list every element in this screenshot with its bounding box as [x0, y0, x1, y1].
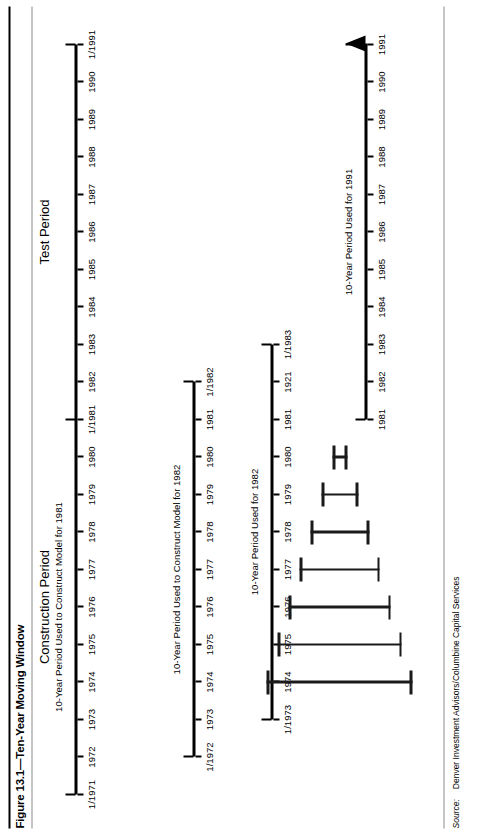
heading-test-period: Test Period — [36, 199, 51, 264]
bar-top-cap — [321, 482, 324, 506]
axis-tick — [195, 531, 201, 533]
axis-tick-label: 1981 — [375, 408, 386, 429]
axis-tick-label: 1981 — [203, 408, 214, 429]
figure-root: Figure 13.1—Ten-Year Moving Window Sourc… — [0, 0, 483, 834]
axis-tick — [195, 568, 201, 570]
axis-tick-label: 1980 — [85, 446, 96, 467]
axis-tick — [77, 643, 83, 645]
axis-tick — [367, 231, 373, 233]
axis-tick — [77, 418, 83, 420]
axis-tick-label: 1983 — [375, 333, 386, 354]
axis-tick-label: 1979 — [281, 483, 292, 504]
axis-tick-label: 1987 — [85, 183, 96, 204]
axis-tick — [273, 381, 279, 383]
timeline-end-cap — [183, 381, 193, 383]
source-rule — [443, 6, 444, 828]
axis-tick — [195, 606, 201, 608]
axis-tick-label: 1981 — [281, 408, 292, 429]
timeline-end-cap — [355, 418, 365, 420]
axis-tick — [195, 381, 201, 383]
axis-tick — [273, 531, 279, 533]
axis-tick-label: 1984 — [85, 296, 96, 317]
timeline-caption: 10-Year Period Used to Construct Model f… — [52, 502, 63, 712]
title-rule-bottom — [31, 6, 32, 828]
axis-tick — [77, 456, 83, 458]
axis-tick-label: 1978 — [203, 521, 214, 542]
axis-tick-label: 1975 — [203, 633, 214, 654]
axis-tick-label: 1977 — [281, 558, 292, 579]
axis-tick — [273, 493, 279, 495]
bar-top-cap — [288, 595, 291, 619]
bar-top-cap — [266, 670, 269, 694]
axis-tick-label: 1973 — [85, 708, 96, 729]
bar-stem — [266, 680, 412, 683]
timeline-caption: 10-Year Period Used to Construct Model f… — [170, 464, 181, 674]
bar-bottom-cap — [409, 670, 412, 694]
axis-tick — [273, 606, 279, 608]
axis-tick — [77, 606, 83, 608]
axis-tick-label: 1/1981 — [85, 404, 96, 433]
axis-tick — [77, 43, 83, 45]
axis-tick — [77, 193, 83, 195]
axis-tick-label: 1974 — [203, 671, 214, 692]
axis-tick — [77, 156, 83, 158]
bar-stem — [288, 605, 390, 608]
axis-tick — [273, 456, 279, 458]
axis-tick-label: 1991 — [375, 33, 386, 54]
axis-tick-label: 1/1972 — [203, 742, 214, 771]
axis-tick-label: 1975 — [85, 633, 96, 654]
axis-tick — [273, 418, 279, 420]
axis-tick-label: 1986 — [375, 221, 386, 242]
axis-tick-label: 1985 — [375, 258, 386, 279]
axis-tick-label: 1989 — [85, 108, 96, 129]
title-rule-top — [8, 6, 10, 828]
axis-tick — [77, 268, 83, 270]
axis-tick — [77, 531, 83, 533]
axis-tick — [273, 718, 279, 720]
axis-tick — [77, 793, 83, 795]
axis-tick — [77, 118, 83, 120]
bar-bottom-cap — [399, 632, 402, 656]
axis-tick-label: 1986 — [85, 221, 96, 242]
axis-tick-label: 1973 — [203, 708, 214, 729]
page-title: Figure 13.1—Ten-Year Moving Window — [13, 624, 25, 828]
axis-tick-label: 1978 — [281, 521, 292, 542]
timeline-end-cap — [65, 418, 75, 420]
axis-tick-label: 1/1971 — [85, 779, 96, 808]
axis-tick-label: 1976 — [203, 596, 214, 617]
axis-tick — [367, 43, 373, 45]
axis-tick — [273, 568, 279, 570]
bar-top-cap — [332, 445, 335, 469]
axis-tick-label: 1/1983 — [281, 329, 292, 358]
axis-tick-label: 1980 — [281, 446, 292, 467]
axis-tick — [77, 306, 83, 308]
axis-tick — [195, 718, 201, 720]
axis-tick — [367, 306, 373, 308]
timeline-end-cap — [65, 43, 75, 45]
axis-tick — [195, 643, 201, 645]
axis-tick-label: 1988 — [85, 146, 96, 167]
axis-tick-label: 1980 — [203, 446, 214, 467]
axis-tick — [195, 681, 201, 683]
axis-tick — [367, 118, 373, 120]
timeline-end-cap — [65, 793, 75, 795]
timeline-caption: 10-Year Period Used for 1982 — [248, 468, 259, 595]
bar-stem — [277, 643, 401, 646]
bar-bottom-cap — [377, 557, 380, 581]
timeline-arrow-stem — [345, 43, 367, 46]
axis-tick-label: 1987 — [375, 183, 386, 204]
figure-rotated-stage: Figure 13.1—Ten-Year Moving Window Sourc… — [0, 0, 483, 834]
axis-tick-label: 1989 — [375, 108, 386, 129]
bar-stem — [299, 568, 379, 571]
axis-tick — [195, 456, 201, 458]
axis-tick — [195, 418, 201, 420]
axis-tick-label: 1990 — [85, 71, 96, 92]
axis-tick — [77, 718, 83, 720]
bar-bottom-cap — [388, 595, 391, 619]
axis-tick-label: 1978 — [85, 521, 96, 542]
timeline-end-cap — [261, 343, 271, 345]
bar-bottom-cap — [355, 482, 358, 506]
axis-tick — [77, 343, 83, 345]
bar-bottom-cap — [366, 520, 369, 544]
source-label: Source: — [450, 799, 460, 828]
